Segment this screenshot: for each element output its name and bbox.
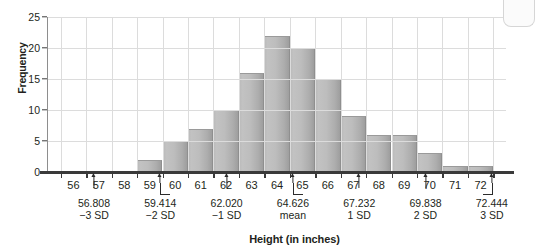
x-tick-mark <box>188 171 189 178</box>
gridline-vertical <box>137 17 138 172</box>
sd-annotation-minus-1-sd: 62.020−1 SD <box>211 197 243 221</box>
x-tick-mark <box>315 171 316 178</box>
sd-sigma-label: −1 SD <box>211 209 243 221</box>
histogram-bar <box>315 79 340 172</box>
gridline-horizontal <box>48 141 506 142</box>
x-tick-label: 64 <box>271 180 283 191</box>
gridline-vertical <box>112 17 113 172</box>
x-tick-mark <box>417 171 418 178</box>
gridline-horizontal <box>48 79 506 80</box>
sd-sigma-label: 2 SD <box>409 209 441 221</box>
sd-arrow-marker <box>93 176 94 188</box>
x-tick-label: 59 <box>144 180 156 191</box>
x-tick-mark <box>239 171 240 178</box>
histogram-bar <box>163 141 188 172</box>
y-tick-label: 10 <box>28 105 40 116</box>
sd-sigma-label: 1 SD <box>343 209 375 221</box>
sd-sigma-label: −2 SD <box>144 209 176 221</box>
gridline-vertical <box>290 17 291 172</box>
sd-arrow-marker <box>226 176 227 188</box>
sd-annotation-mean: 64.626mean <box>277 197 309 221</box>
sd-bracket-marker <box>483 183 493 195</box>
x-tick-label: 69 <box>398 180 410 191</box>
sd-arrow-marker <box>160 176 161 183</box>
sd-value-label: 59.414 <box>144 197 176 209</box>
sd-sigma-label: mean <box>277 209 309 221</box>
gridline-horizontal <box>48 110 506 111</box>
sd-annotation-minus-2-sd: 59.414−2 SD <box>144 197 176 221</box>
x-tick-mark <box>213 171 214 178</box>
x-tick-mark <box>61 171 62 178</box>
sd-annotation-plus-2-sd: 69.8382 SD <box>409 197 441 221</box>
sd-arrow-marker <box>359 176 360 188</box>
gridline-horizontal <box>48 48 506 49</box>
gridline-vertical <box>366 17 367 172</box>
gridline-vertical <box>163 17 164 172</box>
gridline-vertical <box>315 17 316 172</box>
gridline-horizontal <box>48 17 506 18</box>
histogram-bar <box>239 73 264 172</box>
gridline-vertical <box>442 17 443 172</box>
gridline-vertical <box>341 17 342 172</box>
x-tick-label: 67 <box>347 180 359 191</box>
histogram-bar <box>341 116 366 172</box>
x-tick-mark <box>86 171 87 178</box>
sd-annotation-plus-1-sd: 67.2321 SD <box>343 197 375 221</box>
y-tick-mark <box>42 109 47 110</box>
x-tick-label: 68 <box>373 180 385 191</box>
gridline-vertical <box>264 17 265 172</box>
sd-bracket-marker <box>293 183 303 195</box>
x-tick-label: 63 <box>245 180 257 191</box>
sd-annotation-minus-3-sd: 56.808−3 SD <box>78 197 110 221</box>
x-tick-mark <box>442 171 443 178</box>
gridline-vertical <box>493 17 494 172</box>
scan-artifact <box>503 0 535 27</box>
y-tick-mark <box>42 47 47 48</box>
sd-sigma-label: 3 SD <box>476 209 508 221</box>
y-tick-label: 25 <box>28 12 40 23</box>
y-axis-title: Frequency <box>16 13 28 123</box>
gridline-vertical <box>468 17 469 172</box>
bars-container <box>48 17 506 172</box>
sd-arrow-marker <box>425 176 426 188</box>
x-tick-mark <box>341 171 342 178</box>
x-tick-label: 66 <box>322 180 334 191</box>
gridline-vertical <box>61 17 62 172</box>
gridline-vertical <box>417 17 418 172</box>
gridline-vertical <box>239 17 240 172</box>
sd-value-label: 67.232 <box>343 197 375 209</box>
sd-value-label: 69.838 <box>409 197 441 209</box>
x-tick-mark <box>392 171 393 178</box>
histogram-bar <box>188 129 213 172</box>
x-tick-mark <box>468 171 469 178</box>
x-tick-label: 56 <box>67 180 79 191</box>
x-tick-label: 58 <box>118 180 130 191</box>
histogram-figure: Frequency 0510152025 5657585960616263646… <box>0 0 535 252</box>
x-axis-title-text: Height (in inches) <box>249 233 339 245</box>
x-tick-label: 71 <box>449 180 461 191</box>
plot-area: 0510152025 <box>48 17 506 172</box>
gridline-vertical <box>392 17 393 172</box>
sd-arrow-marker <box>292 176 293 183</box>
y-tick-label: 15 <box>28 74 40 85</box>
x-tick-mark <box>366 171 367 178</box>
y-tick-mark <box>42 16 47 17</box>
gridline-vertical <box>213 17 214 172</box>
x-tick-mark <box>112 171 113 178</box>
x-tick-label: 61 <box>195 180 207 191</box>
y-tick-mark <box>42 140 47 141</box>
x-tick-mark <box>264 171 265 178</box>
gridline-vertical <box>188 17 189 172</box>
x-axis-title: Height (in inches) <box>0 233 535 245</box>
sd-value-label: 72.444 <box>476 197 508 209</box>
sd-value-label: 62.020 <box>211 197 243 209</box>
y-tick-label: 20 <box>28 43 40 54</box>
x-tick-mark <box>163 171 164 178</box>
y-tick-label: 5 <box>34 136 40 147</box>
sd-bracket-marker <box>160 183 170 195</box>
x-tick-mark <box>493 171 494 178</box>
sd-arrow-marker <box>491 176 492 183</box>
sd-value-label: 64.626 <box>277 197 309 209</box>
x-tick-label: 60 <box>169 180 181 191</box>
histogram-bar <box>417 153 442 172</box>
